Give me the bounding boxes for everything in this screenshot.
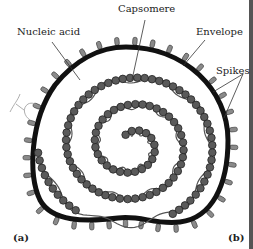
capsomere — [67, 114, 75, 122]
capsomere — [201, 178, 209, 186]
spike — [23, 155, 31, 160]
capsomere — [94, 150, 102, 158]
capsomere — [41, 171, 49, 179]
capsomere — [119, 75, 127, 83]
panel-b-label: (b) — [228, 233, 244, 243]
capsomere — [131, 195, 139, 203]
capsomere — [148, 75, 156, 83]
capsomere — [63, 143, 71, 151]
envelope-label: Envelope — [196, 27, 243, 37]
capsomere — [197, 184, 205, 192]
capsomere — [92, 143, 100, 151]
virus-diagram — [0, 0, 253, 249]
capsomere — [124, 101, 132, 109]
spike — [174, 224, 179, 232]
capsomere — [146, 191, 154, 199]
spikes-leader-1 — [213, 74, 243, 92]
capsomere — [132, 100, 140, 108]
spike — [149, 39, 155, 48]
capsomere — [108, 193, 116, 201]
capsomere — [206, 164, 214, 172]
capsomere — [179, 153, 187, 161]
capsomere — [34, 149, 42, 157]
capsomere — [131, 168, 139, 176]
capsomere — [208, 141, 216, 149]
capsomere — [180, 146, 188, 154]
capsomere — [49, 185, 57, 193]
capsomere — [66, 157, 74, 165]
capsomere — [204, 171, 212, 179]
capsomere — [179, 139, 187, 147]
capsomere — [139, 193, 147, 201]
capsomere — [64, 151, 72, 159]
capsomere — [62, 136, 70, 144]
spike — [228, 162, 237, 168]
capsomere — [208, 134, 216, 142]
capsomere — [139, 101, 147, 109]
capsomere — [135, 127, 143, 135]
capsomere — [155, 77, 163, 85]
spike — [114, 37, 119, 45]
capsomere — [208, 156, 216, 164]
capsomere — [64, 122, 72, 130]
spike — [229, 127, 237, 132]
spikes-label: Spikes — [216, 66, 250, 76]
spike — [23, 173, 31, 178]
capsomere — [206, 127, 214, 135]
capsomere — [105, 79, 113, 87]
capsomere — [192, 191, 200, 199]
capsomere — [151, 141, 159, 149]
capsomere — [110, 106, 118, 114]
capsomere — [36, 157, 44, 165]
capsomere — [112, 77, 120, 85]
capsomere — [38, 164, 46, 172]
capsomere — [128, 127, 136, 135]
spike — [24, 137, 33, 142]
spike — [107, 221, 112, 229]
nucleic-acid-label: Nucleic acid — [17, 27, 80, 37]
capsomere — [204, 120, 212, 128]
capsomere — [177, 131, 185, 139]
spike — [90, 222, 95, 230]
capsomere — [134, 74, 142, 82]
capsomere — [141, 74, 149, 82]
capsomere — [146, 102, 154, 110]
capsomere — [177, 161, 185, 169]
spike — [155, 223, 160, 232]
capsomere — [151, 148, 159, 156]
capsomere — [209, 149, 217, 157]
capsomere — [124, 169, 132, 177]
capsomere — [117, 103, 125, 111]
capsomere — [124, 195, 132, 203]
capsomere — [116, 168, 124, 176]
capsomere-label: Capsomere — [118, 4, 175, 14]
capsomere — [98, 82, 106, 90]
spike — [71, 221, 76, 229]
spike — [132, 37, 137, 45]
capsomere — [72, 206, 80, 214]
capsomere — [138, 165, 146, 173]
panel-a-label: (a) — [13, 233, 29, 243]
capsomere — [116, 195, 124, 203]
capsomere — [91, 136, 99, 144]
spike — [230, 145, 238, 150]
capsomere — [169, 210, 177, 218]
capsomere — [45, 178, 53, 186]
capsomere — [63, 129, 71, 137]
